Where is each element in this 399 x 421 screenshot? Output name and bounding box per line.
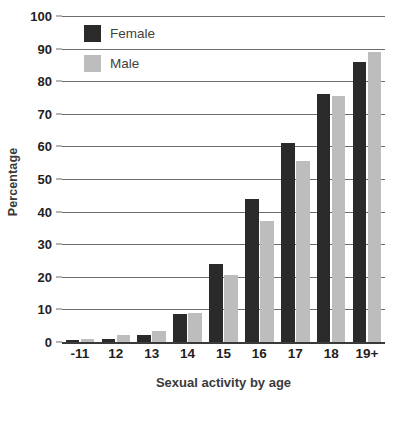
bar-male-13: [152, 331, 166, 342]
bar-female-15: [209, 264, 223, 342]
x-axis-tick-label: 13: [144, 346, 159, 361]
y-axis-tick-label: 30: [38, 237, 52, 252]
y-axis-tick-label: 50: [38, 172, 52, 187]
x-axis-tick-label: 18: [324, 346, 339, 361]
bar-female--11: [66, 340, 80, 342]
bar-female-12: [102, 339, 116, 342]
bar-female-13: [137, 335, 151, 342]
x-axis-tick-labels: -111213141516171819+: [62, 346, 385, 368]
bar-group: [206, 16, 242, 342]
bar-male-16: [260, 221, 274, 342]
x-axis-tick-label: 14: [180, 346, 195, 361]
y-axis-tick-label: 40: [38, 204, 52, 219]
legend-item-female: Female: [84, 20, 155, 46]
y-axis-tick-labels: 0102030405060708090100: [0, 16, 56, 342]
bar-male-19plus: [368, 52, 382, 342]
bar-group: [313, 16, 349, 342]
y-axis-tick-label: 0: [45, 335, 52, 350]
y-axis-tick-label: 20: [38, 269, 52, 284]
bar-female-19plus: [353, 62, 367, 342]
legend-label: Male: [110, 56, 139, 71]
bar-male-17: [296, 161, 310, 342]
y-axis-tick-label: 90: [38, 41, 52, 56]
y-axis-tick-label: 100: [30, 9, 52, 24]
y-axis-tick-label: 60: [38, 139, 52, 154]
bar-female-16: [245, 199, 259, 342]
x-axis-tick-label: 16: [252, 346, 267, 361]
x-axis-tick-label: 19+: [356, 346, 379, 361]
bar-female-17: [281, 143, 295, 342]
bar-male-14: [188, 313, 202, 342]
x-axis-tick-label: 17: [288, 346, 303, 361]
x-axis-tick-label: 12: [108, 346, 123, 361]
bar-group: [349, 16, 385, 342]
x-axis-tick-label: -11: [71, 346, 90, 361]
x-axis-tick-label: 15: [216, 346, 231, 361]
y-axis-tick-label: 10: [38, 302, 52, 317]
bar-group: [277, 16, 313, 342]
bar-female-18: [317, 94, 331, 342]
bar-male-15: [224, 275, 238, 342]
bar-male-18: [332, 96, 346, 342]
bar-group: [241, 16, 277, 342]
legend-label: Female: [110, 26, 155, 41]
gridline: [62, 342, 385, 344]
legend: FemaleMale: [84, 20, 155, 80]
legend-swatch-male: [84, 55, 101, 72]
x-axis-title: Sexual activity by age: [62, 375, 385, 390]
y-axis-tick-label: 80: [38, 74, 52, 89]
bar-female-14: [173, 314, 187, 342]
y-axis-tick-label: 70: [38, 106, 52, 121]
bar-male--11: [81, 339, 95, 342]
bar-chart: Percentage 0102030405060708090100 -11121…: [0, 0, 399, 421]
bar-group: [170, 16, 206, 342]
bar-male-12: [117, 335, 131, 342]
legend-item-male: Male: [84, 50, 155, 76]
legend-swatch-female: [84, 25, 101, 42]
